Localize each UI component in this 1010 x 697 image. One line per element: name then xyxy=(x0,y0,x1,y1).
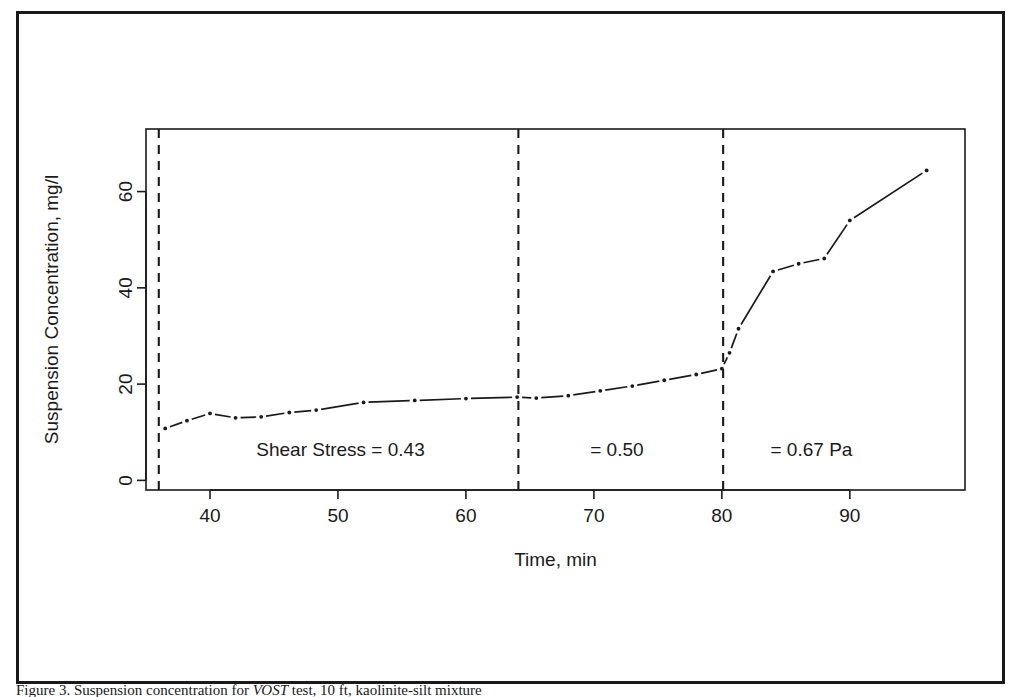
x-axis-tick-label: 70 xyxy=(583,505,604,526)
y-axis-tick-label: 0 xyxy=(116,475,137,486)
data-point-marker xyxy=(464,397,468,401)
data-line-segment xyxy=(778,265,794,270)
data-point-marker xyxy=(848,219,852,223)
data-line-segment xyxy=(471,397,512,398)
data-line-segment xyxy=(573,392,595,395)
data-point-marker xyxy=(737,327,741,331)
data-point-marker xyxy=(662,378,666,382)
data-line-segment xyxy=(170,422,182,426)
data-line-segment xyxy=(294,411,311,413)
data-line-segment xyxy=(637,381,659,385)
data-line-segment xyxy=(741,276,770,325)
data-point-marker xyxy=(287,411,291,415)
data-line-segment xyxy=(827,225,847,255)
data-line-segment xyxy=(266,413,284,416)
data-line-segment xyxy=(731,333,736,348)
plot-box-border xyxy=(146,129,965,490)
data-line-segment xyxy=(192,415,205,419)
y-axis-title: Suspension Concentration, mg/l xyxy=(41,175,62,444)
caption-emphasis: VOST xyxy=(253,682,288,697)
data-line-segment xyxy=(804,259,820,262)
chart-area: 0204060405060708090Time, minSuspension C… xyxy=(0,0,1010,697)
data-line-segment xyxy=(541,396,563,398)
data-point-marker xyxy=(797,262,801,266)
y-axis-tick-label: 40 xyxy=(116,277,137,298)
x-axis-tick-label: 40 xyxy=(199,505,220,526)
caption-rest: test, 10 ft, kaolinite-silt mixture xyxy=(292,682,482,697)
data-point-marker xyxy=(534,396,538,400)
data-point-marker xyxy=(822,257,826,261)
data-point-marker xyxy=(630,384,634,388)
data-line-segment xyxy=(241,417,257,418)
data-point-marker xyxy=(566,394,570,398)
data-point-marker xyxy=(185,419,189,423)
shear-stress-label-3: = 0.67 Pa xyxy=(771,439,853,460)
shear-stress-label-2: = 0.50 xyxy=(590,439,643,460)
data-point-marker xyxy=(314,408,318,412)
data-point-marker xyxy=(515,395,519,399)
x-axis-tick-label: 90 xyxy=(839,505,860,526)
y-axis-tick-label: 20 xyxy=(116,374,137,395)
data-point-marker xyxy=(925,168,929,172)
data-point-marker xyxy=(720,367,724,371)
x-axis-tick-label: 50 xyxy=(327,505,348,526)
data-line-segment xyxy=(420,399,461,401)
data-point-marker xyxy=(728,351,732,355)
data-point-marker xyxy=(771,270,775,274)
data-line-segment xyxy=(669,375,691,379)
data-line-segment xyxy=(321,403,358,409)
data-line-segment xyxy=(369,401,410,403)
y-axis-tick-label: 60 xyxy=(116,181,137,202)
data-point-marker xyxy=(362,400,366,404)
data-point-marker xyxy=(694,373,698,377)
data-line-segment xyxy=(605,387,627,390)
x-axis-tick-label: 80 xyxy=(711,505,732,526)
data-point-marker xyxy=(163,426,167,430)
data-point-marker xyxy=(208,412,212,416)
data-line-segment xyxy=(215,414,231,417)
caption-prefix: Figure 3. xyxy=(16,682,70,697)
suspension-concentration-chart: 0204060405060708090Time, minSuspension C… xyxy=(0,0,1010,697)
shear-stress-label-1: Shear Stress = 0.43 xyxy=(256,439,424,460)
data-point-marker xyxy=(413,399,417,403)
caption-text: Suspension concentration for xyxy=(74,682,249,697)
data-point-marker xyxy=(598,389,602,393)
figure-caption: Figure 3. Suspension concentration for V… xyxy=(16,681,996,697)
data-line-segment xyxy=(701,370,717,374)
x-axis-tick-label: 60 xyxy=(455,505,476,526)
data-point-marker xyxy=(259,415,263,419)
data-line-segment xyxy=(854,173,922,218)
data-point-marker xyxy=(234,416,238,420)
x-axis-title: Time, min xyxy=(514,549,597,570)
data-line-segment xyxy=(724,357,727,364)
